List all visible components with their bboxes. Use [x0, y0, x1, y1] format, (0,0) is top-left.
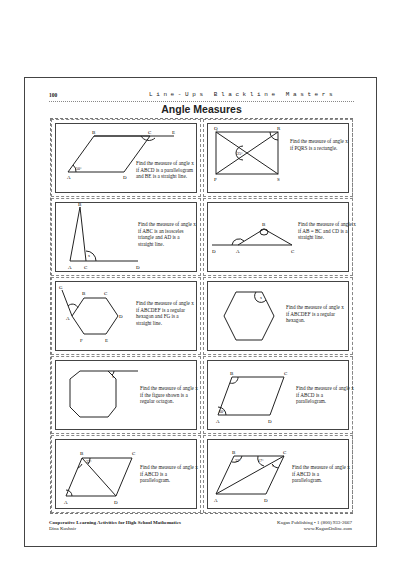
svg-text:D: D	[119, 314, 123, 319]
problem-prompt: Find the measure of angle x if PQRS is a…	[290, 138, 348, 151]
svg-text:A: A	[236, 249, 240, 254]
series-title: Line-Ups Blackline Masters	[149, 91, 336, 98]
svg-text:R: R	[277, 126, 281, 131]
problem-prompt: Find the measure of angle x if ABCD is a…	[136, 160, 194, 180]
svg-text:A: A	[214, 498, 218, 503]
svg-text:D: D	[268, 419, 272, 424]
svg-text:25°: 25°	[237, 151, 243, 156]
svg-text:17°: 17°	[258, 458, 264, 463]
problem-card-6: x Find the measure of angle x if ABCDEF …	[203, 277, 353, 355]
svg-text:C: C	[148, 130, 152, 135]
svg-text:32°: 32°	[235, 458, 241, 463]
footer-right: Kagan Publishing • 1 (800) 933-2667 www.…	[277, 520, 352, 532]
svg-text:x: x	[272, 463, 274, 468]
book-title: Cooperative Learning Activities for High…	[49, 520, 181, 525]
svg-text:E: E	[172, 130, 175, 135]
svg-text:D: D	[136, 265, 140, 270]
svg-text:C: C	[284, 371, 288, 376]
svg-text:S: S	[277, 177, 280, 182]
svg-text:D: D	[212, 249, 216, 254]
publisher: Kagan Publishing • 1 (800) 933-2667	[277, 520, 352, 525]
svg-text:B: B	[262, 222, 266, 227]
svg-text:32°: 32°	[86, 459, 92, 464]
problem-card-3: BA CD x Find the measure of angle x if A…	[51, 198, 201, 276]
problem-prompt: Find the measure of angle x if ABCD is a…	[296, 385, 354, 405]
problem-card-4: BD AC Find the measure of angle x if AB …	[203, 198, 353, 276]
svg-text:A: A	[67, 175, 71, 180]
svg-text:A: A	[64, 500, 68, 505]
problem-prompt: Find the measure of angle x if AB = BC a…	[298, 221, 356, 241]
problem-card-2: QR PS 25° Find the measure of angle x if…	[203, 119, 353, 197]
svg-text:A: A	[66, 316, 70, 321]
svg-text:B: B	[82, 291, 86, 296]
rectangle-diagram: QR PS 25°	[208, 124, 352, 196]
svg-text:B: B	[92, 130, 96, 135]
svg-text:D: D	[123, 175, 127, 180]
svg-text:x: x	[112, 374, 114, 379]
svg-text:x: x	[88, 253, 90, 258]
footer-left: Cooperative Learning Activities for High…	[49, 520, 181, 532]
problem-prompt: Find the measure of angle x if the figur…	[140, 385, 198, 405]
svg-text:A: A	[68, 265, 72, 270]
problem-grid: AB CD E50° Find the measure of angle x i…	[50, 118, 353, 514]
problem-prompt: Find the measure of angle x if ABCD is a…	[140, 464, 198, 484]
page-number: 100	[49, 92, 57, 98]
svg-text:B: B	[230, 371, 234, 376]
website[interactable]: www.KaganOnline.com	[304, 526, 352, 531]
svg-text:B: B	[78, 203, 82, 207]
problem-card-7: x Find the measure of angle x if the fig…	[51, 356, 201, 434]
problem-card-8: BC AD 60° Find the measure of angle x if…	[203, 356, 353, 434]
worksheet-page: 100 Line-Ups Blackline Masters Angle Mea…	[24, 77, 377, 547]
svg-text:C: C	[283, 450, 287, 455]
problem-card-9: BC AD 32° Find the measure of angle x if…	[51, 435, 201, 513]
svg-text:C: C	[84, 265, 88, 270]
svg-text:A: A	[216, 419, 220, 424]
svg-text:50°: 50°	[76, 166, 82, 171]
problem-card-1: AB CD E50° Find the measure of angle x i…	[51, 119, 201, 197]
svg-text:C: C	[132, 451, 136, 456]
page-title: Angle Measures	[25, 103, 378, 115]
problem-prompt: Find the measure of angle x if ABC is an…	[138, 221, 196, 247]
svg-text:C: C	[291, 249, 295, 254]
svg-text:Q: Q	[214, 126, 218, 131]
svg-text:E: E	[105, 338, 108, 343]
problem-card-5: GB CD EF A Find the measure of angle x i…	[51, 277, 201, 355]
header-divider	[49, 101, 354, 102]
problem-prompt: Find the measure of angle x if ABCDEF is…	[286, 304, 344, 324]
svg-text:B: B	[80, 451, 84, 456]
svg-text:G: G	[59, 285, 63, 290]
author: Dina Kushnir	[49, 526, 76, 531]
svg-text:x: x	[260, 295, 262, 300]
svg-text:D: D	[114, 500, 118, 505]
problem-card-10: BC AD 32° 17° x Find the measure of angl…	[203, 435, 353, 513]
problem-prompt: Find the measure of angle x if ABCD is a…	[292, 464, 350, 484]
svg-text:B: B	[232, 450, 236, 455]
svg-text:F: F	[80, 338, 83, 343]
svg-text:D: D	[264, 498, 268, 503]
svg-text:60°: 60°	[219, 409, 225, 414]
problem-prompt: Find the measure of angle x if ABCDEF is…	[136, 300, 194, 326]
svg-text:C: C	[104, 291, 108, 296]
svg-text:P: P	[214, 177, 217, 182]
